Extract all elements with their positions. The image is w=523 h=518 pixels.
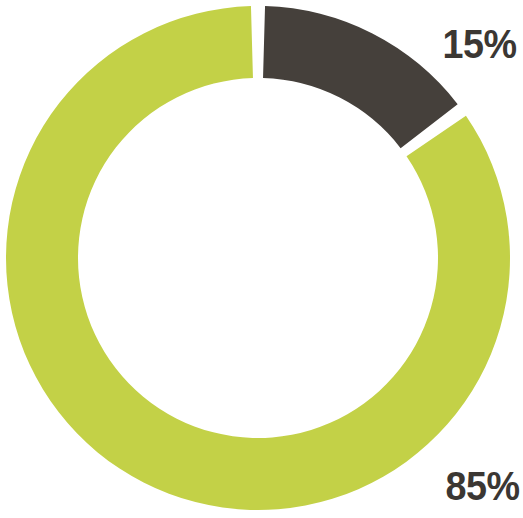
donut-slices bbox=[6, 6, 510, 510]
donut-label-green-percent: 85% bbox=[446, 466, 520, 507]
donut-chart-svg bbox=[0, 0, 523, 518]
donut-chart: 15% 85% bbox=[0, 0, 523, 518]
donut-label-dark-percent: 15% bbox=[443, 24, 517, 65]
donut-slice-dark[interactable] bbox=[263, 6, 458, 148]
